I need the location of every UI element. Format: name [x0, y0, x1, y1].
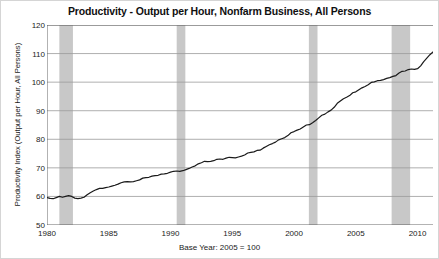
- x-tick-label: 1995: [212, 229, 252, 238]
- x-tick-label: 1980: [27, 229, 67, 238]
- base-year-note: Base Year: 2005 = 100: [1, 243, 438, 252]
- recession-band: [392, 25, 411, 225]
- plot-area: [47, 25, 433, 225]
- y-tick-label: 90: [19, 106, 45, 115]
- axis-lines-group: [47, 25, 433, 225]
- recession-band: [309, 25, 318, 225]
- y-tick-label: 110: [19, 49, 45, 58]
- data-series-line: [47, 52, 433, 199]
- x-tick-label: 2010: [398, 229, 438, 238]
- y-tick-label: 100: [19, 78, 45, 87]
- x-tick-label: 2000: [274, 229, 314, 238]
- x-tick-label: 1985: [89, 229, 129, 238]
- productivity-line-chart: [47, 25, 433, 225]
- x-tick-label: 1990: [151, 229, 191, 238]
- recession-shading-group: [59, 25, 410, 225]
- recession-band: [177, 25, 186, 225]
- x-tick-label: 2005: [336, 229, 376, 238]
- y-tick-label: 70: [19, 163, 45, 172]
- gridlines-group: [47, 25, 433, 196]
- y-axis-tick-labels: 1201101009080706050: [15, 25, 45, 225]
- x-axis-tick-labels: 1980198519901995200020052010: [47, 229, 433, 243]
- y-tick-label: 60: [19, 192, 45, 201]
- chart-container: Productivity - Output per Hour, Nonfarm …: [0, 0, 439, 259]
- y-tick-label: 120: [19, 21, 45, 30]
- chart-title: Productivity - Output per Hour, Nonfarm …: [1, 5, 438, 17]
- y-tick-label: 80: [19, 135, 45, 144]
- recession-band: [59, 25, 73, 225]
